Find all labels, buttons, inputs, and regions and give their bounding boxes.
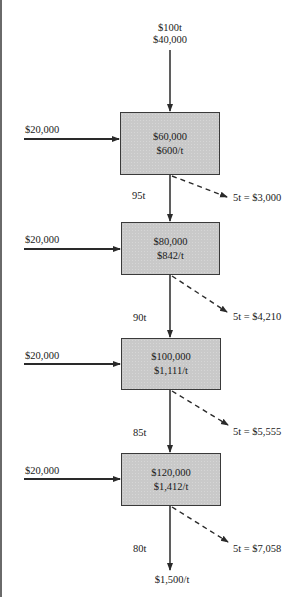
added-input-label-3: $20,000 (25, 350, 59, 362)
stage-unit-cost: $842/t (157, 249, 184, 263)
added-input-label-4: $20,000 (25, 465, 59, 477)
stage-cost: $60,000 (153, 130, 187, 144)
loss-label-2: 5t = $4,210 (233, 311, 281, 323)
loss-arrow-3 (172, 391, 228, 425)
stage-cost: $120,000 (151, 466, 190, 480)
output-qty-label-2: 90t (133, 312, 146, 324)
top-input-quantity: $100t (153, 22, 187, 34)
stage-cost: $80,000 (153, 235, 187, 249)
added-input-label-2: $20,000 (25, 234, 59, 246)
final-output-label: $1,500/t (155, 574, 190, 586)
stage-unit-cost: $600/t (157, 144, 184, 158)
added-input-label-1: $20,000 (25, 124, 59, 136)
loss-label-4: 5t = $7,058 (233, 543, 281, 555)
stage-box-4: $120,000 $1,412/t (121, 453, 221, 506)
loss-label-1: 5t = $3,000 (233, 192, 281, 204)
stage-unit-cost: $1,111/t (154, 364, 188, 378)
loss-label-3: 5t = $5,555 (233, 426, 281, 438)
stage-box-2: $80,000 $842/t (121, 222, 220, 275)
stage-unit-cost: $1,412/t (154, 480, 189, 494)
loss-arrow-1 (172, 176, 227, 197)
top-input-label: $100t $40,000 (153, 22, 187, 46)
loss-arrow-2 (172, 276, 227, 312)
output-qty-label-1: 95t (132, 190, 145, 202)
stage-box-3: $100,000 $1,111/t (121, 338, 221, 390)
flow-connectors (0, 0, 302, 597)
output-qty-label-4: 80t (133, 543, 146, 555)
stage-box-1: $60,000 $600/t (120, 112, 220, 175)
stage-cost: $100,000 (151, 350, 190, 364)
loss-arrow-4 (172, 507, 228, 542)
output-qty-label-3: 85t (133, 427, 146, 439)
top-input-cost: $40,000 (153, 34, 187, 46)
